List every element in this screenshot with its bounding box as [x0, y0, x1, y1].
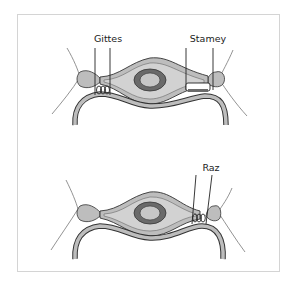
- label-raz: Raz: [202, 162, 219, 173]
- left-fascia-line-bottom: [51, 180, 78, 250]
- left-fascia-line: [52, 48, 80, 114]
- diagram-svg: Gittes Stamey Raz: [0, 0, 299, 283]
- urethra-lumen-bottom: [140, 206, 160, 220]
- right-tissue-knob: [208, 72, 225, 87]
- top-panel: Gittes Stamey: [52, 33, 247, 125]
- stamey-bolster-shadow: [188, 89, 208, 92]
- urethra-lumen: [140, 73, 160, 87]
- bladder-neck-suspension-figure: Gittes Stamey Raz: [0, 0, 299, 283]
- label-gittes: Gittes: [94, 33, 122, 44]
- bottom-panel: Raz: [51, 162, 245, 259]
- label-stamey: Stamey: [190, 33, 227, 44]
- left-tissue-knob-bottom: [77, 205, 100, 222]
- left-tissue-knob: [77, 71, 100, 88]
